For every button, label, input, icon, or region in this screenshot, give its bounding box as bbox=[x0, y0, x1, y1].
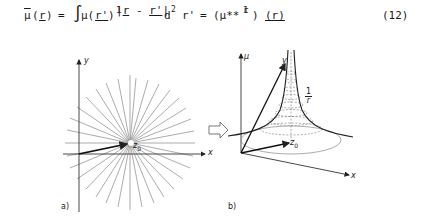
transition-arrow-icon bbox=[209, 122, 228, 138]
figure-a-label: a) bbox=[61, 202, 69, 211]
figure-b-label: b) bbox=[228, 202, 236, 211]
figure-b-mu-label: μ bbox=[244, 52, 249, 61]
position-vector-a bbox=[79, 144, 127, 154]
figure-a-point-label: z0 bbox=[133, 141, 141, 152]
figure-b-point-label: z0 bbox=[290, 138, 298, 149]
cusp-curve-right bbox=[294, 50, 353, 137]
cusp-curve-left bbox=[228, 50, 288, 136]
figure-b-x-label: x bbox=[351, 171, 356, 180]
figure-a-axes bbox=[63, 60, 205, 212]
figure-a-y-label: y bbox=[84, 56, 89, 65]
figure-b-y-label: y bbox=[282, 56, 287, 65]
position-vector-b bbox=[241, 143, 289, 153]
figure-a-x-label: x bbox=[208, 148, 213, 157]
figure-canvas bbox=[0, 0, 426, 218]
curve-label-fraction: 1 r bbox=[305, 88, 312, 105]
y-axis-vector-b bbox=[241, 64, 285, 153]
